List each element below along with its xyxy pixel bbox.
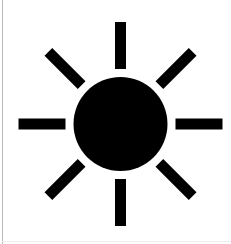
icon-canvas (0, 0, 231, 244)
sun-icon (0, 0, 231, 244)
ray-bottom (115, 179, 126, 226)
ray-right (176, 119, 223, 130)
ray-bottom-left (44, 159, 85, 200)
ray-top (115, 22, 126, 69)
ray-left (19, 119, 66, 130)
sun-icon-group (19, 22, 223, 226)
ray-top-right (156, 48, 197, 89)
ray-top-left (44, 48, 85, 89)
sun-core-circle (74, 77, 168, 171)
ray-bottom-right (156, 159, 197, 200)
